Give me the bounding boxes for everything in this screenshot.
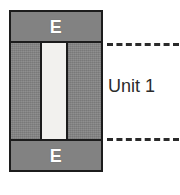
unit-callout-label: Unit 1	[108, 77, 155, 97]
boundary-element-label-top: E	[50, 18, 63, 36]
element-web-region	[11, 43, 101, 141]
structural-element-outline: E E	[9, 10, 103, 172]
diagram-canvas: E E Unit 1	[0, 0, 180, 195]
boundary-element-zone-top: E	[11, 12, 101, 43]
boundary-element-label-bottom: E	[50, 147, 63, 165]
callout-leader-line-top	[107, 43, 179, 46]
callout-leader-line-bottom	[107, 138, 179, 141]
element-web-strip	[40, 43, 68, 141]
boundary-element-zone-bottom: E	[11, 139, 101, 170]
